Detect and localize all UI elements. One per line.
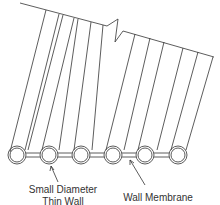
tube-2 <box>28 15 74 164</box>
label-wall-membrane: Wall Membrane <box>118 192 198 204</box>
top-edge-left <box>20 3 214 57</box>
tube-wall-diagram <box>0 0 220 205</box>
tube-1 <box>8 10 59 164</box>
label-tubes-line1: Small Diameter <box>28 184 98 196</box>
leader-tubes <box>50 166 58 182</box>
label-small-diameter-tubes: Small Diameter Thin Wall Tubes <box>28 184 98 205</box>
tube-4 <box>92 25 135 164</box>
tube-6 <box>157 48 213 164</box>
tube-3 <box>59 19 91 164</box>
wall-membranes <box>26 153 169 157</box>
label-tubes-line2: Thin Wall Tubes <box>28 196 98 205</box>
